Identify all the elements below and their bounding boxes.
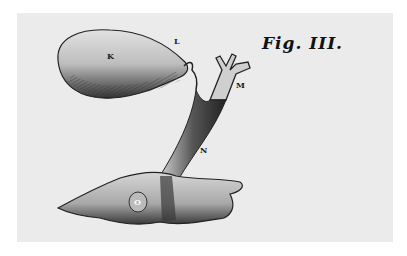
label-o: O xyxy=(134,197,141,207)
gallbladder xyxy=(58,30,188,98)
common-bile-duct xyxy=(160,90,226,180)
label-n: N xyxy=(200,145,207,155)
label-m: M xyxy=(236,80,245,90)
label-l: L xyxy=(174,36,180,46)
hepatic-ducts xyxy=(210,54,250,100)
figure-title: Fig. III. xyxy=(262,33,343,53)
duodenum xyxy=(58,172,242,224)
engraving-illustration xyxy=(0,0,407,256)
label-k: K xyxy=(107,51,114,61)
